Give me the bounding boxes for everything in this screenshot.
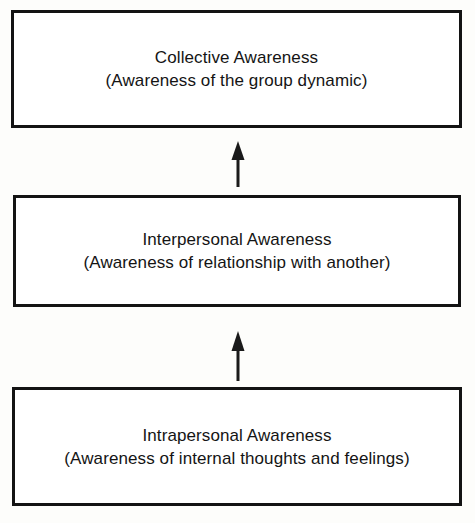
tier-box-intrapersonal: Intrapersonal Awareness (Awareness of in… [12,387,462,506]
tier-subtitle-intrapersonal: (Awareness of internal thoughts and feel… [64,447,409,470]
arrow-up-icon [229,331,247,381]
tier-box-interpersonal: Interpersonal Awareness (Awareness of re… [13,195,461,307]
tier-subtitle-interpersonal: (Awareness of relationship with another) [83,251,390,274]
connector-interpersonal-to-collective [0,141,475,189]
tier-box-collective: Collective Awareness (Awareness of the g… [11,10,462,128]
connector-intrapersonal-to-interpersonal [0,331,475,383]
arrow-up-icon [229,141,247,187]
tier-title-collective: Collective Awareness [155,46,318,69]
awareness-hierarchy-diagram: Collective Awareness (Awareness of the g… [0,0,475,523]
tier-subtitle-collective: (Awareness of the group dynamic) [106,69,368,92]
tier-title-interpersonal: Interpersonal Awareness [142,228,331,251]
tier-title-intrapersonal: Intrapersonal Awareness [142,424,331,447]
